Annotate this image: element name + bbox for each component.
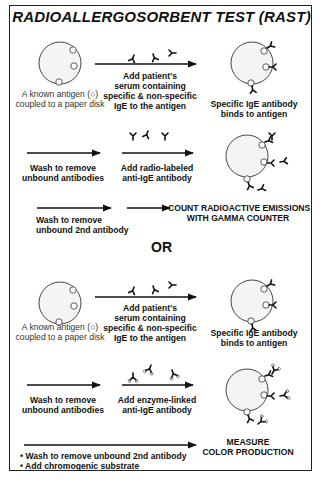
wash-label-1: Wash to remove unbound antibodies [18,163,108,183]
bound-result-1: Specific IgE antibody binds to antigen [204,99,304,119]
enzyme-linked-anti-ige [128,363,180,382]
disk-caption-2: A known antigen (○) coupled to a paper d… [14,322,106,342]
label-line: WITH GAMMA COUNTER [168,213,308,223]
add-radio-label: Add radio-labeled anti-IgE antibody [112,163,202,183]
label-line: Specific IgE antibody [204,99,304,109]
label-line: Wash to remove [36,215,129,225]
label-line: anti-IgE antibody [112,173,202,183]
label-line: COLOR PRODUCTION [198,447,298,457]
label-line: serum containing [100,313,200,323]
wash-label-3: Wash to remove unbound antibodies [18,395,108,415]
measure-color-label: MEASURE COLOR PRODUCTION [198,437,298,457]
bound-result-2: Specific IgE antibody binds to antigen [204,328,304,348]
or-divider: OR [0,239,323,255]
label-line: serum containing [100,81,200,91]
label-line: specific & non-specific [100,91,200,101]
label-line: specific & non-specific [100,323,200,333]
disk-caption-1: A known antigen (○) coupled to a paper d… [14,89,106,109]
label-line: unbound antibodies [18,405,108,415]
label-line: COUNT RADIOACTIVE EMISSIONS [168,203,308,213]
free-ige-antibodies-2 [129,282,176,295]
add-serum-label-2: Add patient's serum containing specific … [100,303,200,343]
label-line: binds to antigen [204,109,304,119]
disk-caption-line: A known antigen (○) [14,89,106,99]
disk-caption-line: A known antigen (○) [14,322,106,332]
label-line: MEASURE [198,437,298,447]
bound-disk-2 [231,280,276,332]
label-line: binds to antigen [204,338,304,348]
label-line: anti-IgE antibody [112,405,202,415]
radio-complex-disk [226,133,287,193]
label-line: Add patient's [100,303,200,313]
label-line: IgE to the antigen [100,333,200,343]
bound-disk-1 [231,42,276,94]
add-enzyme-label: Add enzyme-linked anti-IgE antibody [112,395,202,415]
label-line: Add patient's [100,71,200,81]
label-line: Wash to remove [18,163,108,173]
add-serum-label-1: Add patient's serum containing specific … [100,71,200,111]
step-bullet: • Wash to remove unbound 2nd antibody [20,451,186,461]
free-ige-antibodies-1 [129,50,176,63]
label-line: Specific IgE antibody [204,328,304,338]
count-emissions-label: COUNT RADIOACTIVE EMISSIONS WITH GAMMA C… [168,203,308,223]
enzyme-complex-disk [226,363,290,427]
antigen-disk-1 [39,42,81,85]
wash-substrate-steps: • Wash to remove unbound 2nd antibody • … [20,451,186,471]
radio-labeled-anti-ige [130,130,168,140]
label-line: Add enzyme-linked [112,395,202,405]
disk-caption-line: coupled to a paper disk [14,99,106,109]
label-line: unbound antibodies [18,173,108,183]
label-line: Wash to remove [18,395,108,405]
label-line: unbound 2nd antibody [36,225,129,235]
wash-label-2: Wash to remove unbound 2nd antibody [36,215,129,235]
antigen-disk-2 [39,282,81,325]
disk-caption-line: coupled to a paper disk [14,332,106,342]
label-line: Add radio-labeled [112,163,202,173]
step-bullet: • Add chromogenic substrate [20,461,186,471]
label-line: IgE to the antigen [100,101,200,111]
